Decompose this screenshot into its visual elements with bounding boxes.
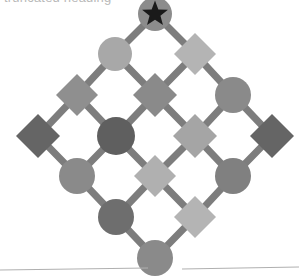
node-circle-right-lower[interactable]: [215, 158, 251, 194]
node-circle-lower-left[interactable]: [98, 199, 134, 235]
footer-rule-right: [182, 267, 299, 269]
footer-rule-left: [0, 268, 148, 270]
nodes-layer: [16, 0, 294, 276]
node-circle-bottom-apex[interactable]: [137, 240, 173, 276]
lattice-graph-figure: [0, 0, 299, 277]
edges-layer: [38, 14, 272, 258]
page-root: truncated heading: [0, 0, 299, 277]
node-circle-center-left[interactable]: [97, 117, 135, 155]
node-circle-upper-left[interactable]: [98, 37, 132, 71]
node-circle-right-upper[interactable]: [215, 77, 251, 113]
node-circle-left-lower[interactable]: [59, 158, 95, 194]
